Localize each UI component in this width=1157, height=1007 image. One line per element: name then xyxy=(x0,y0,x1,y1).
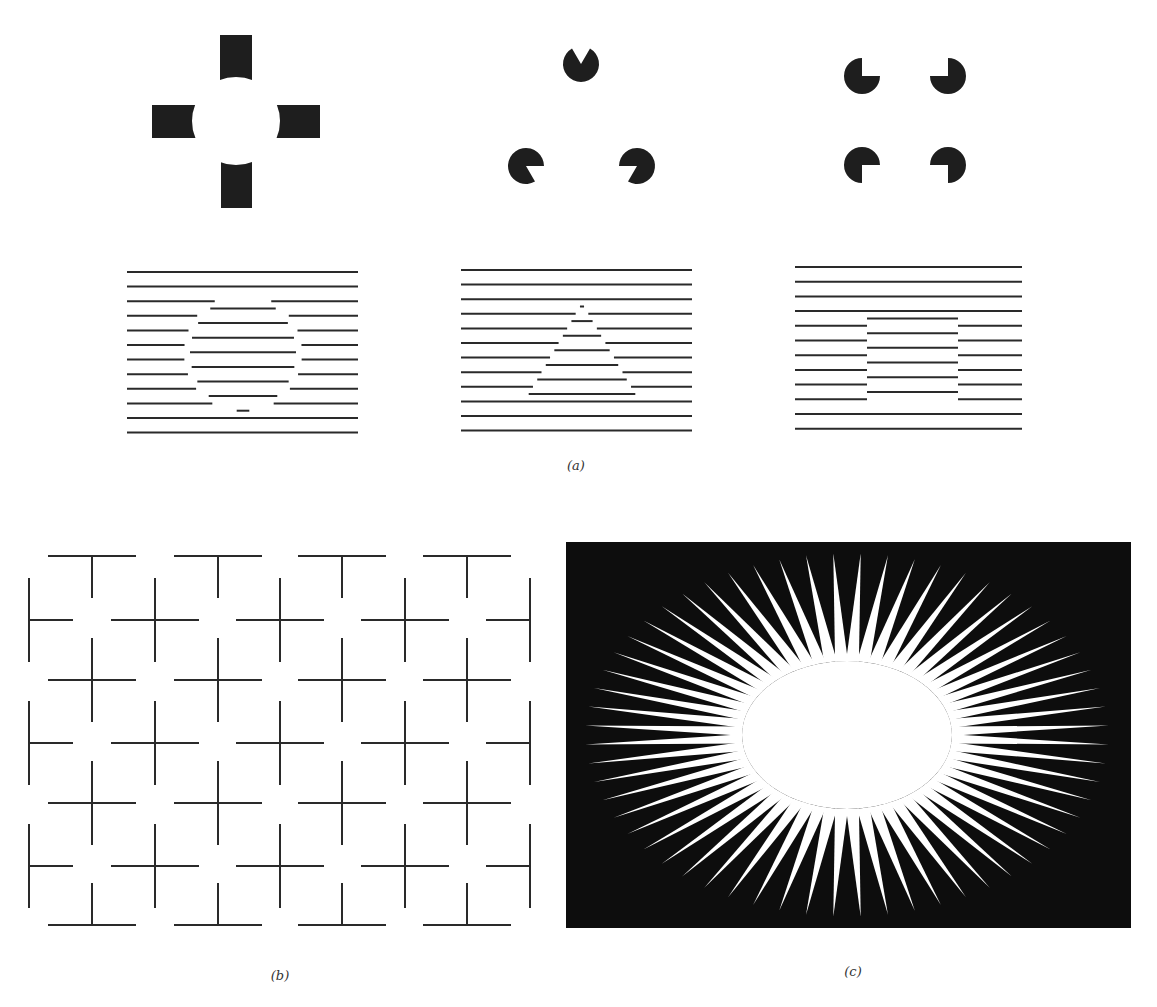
pacman-inducer xyxy=(844,58,880,94)
panel-c-sunburst xyxy=(566,542,1131,928)
cross-bar xyxy=(220,35,252,82)
pacman-inducer xyxy=(563,48,599,82)
caption-a: (a) xyxy=(567,458,585,473)
pacman-inducer xyxy=(930,58,966,94)
pacman-inducer xyxy=(930,147,966,183)
panel-b-cross-grid xyxy=(29,556,530,925)
cross-bar xyxy=(221,162,252,208)
caption-c: (c) xyxy=(844,964,861,979)
illusory-contours-figure xyxy=(0,0,1157,1007)
caption-b: (b) xyxy=(271,968,289,983)
pacman-inducer xyxy=(508,148,544,184)
cross-bar xyxy=(275,105,320,138)
kanizsa-square xyxy=(844,58,966,183)
kanizsa-triangle xyxy=(508,48,655,184)
pacman-inducer xyxy=(844,147,880,183)
pacman-inducer xyxy=(619,148,655,184)
illusory-bright-ellipse xyxy=(742,661,952,809)
cross-bar xyxy=(152,105,197,138)
grating-triangle xyxy=(461,270,692,431)
grating-square xyxy=(795,267,1022,429)
grating-circle xyxy=(127,272,358,433)
ehrenstein-cross-circle xyxy=(152,35,320,208)
panel-a-illusory-shapes xyxy=(127,35,1022,433)
